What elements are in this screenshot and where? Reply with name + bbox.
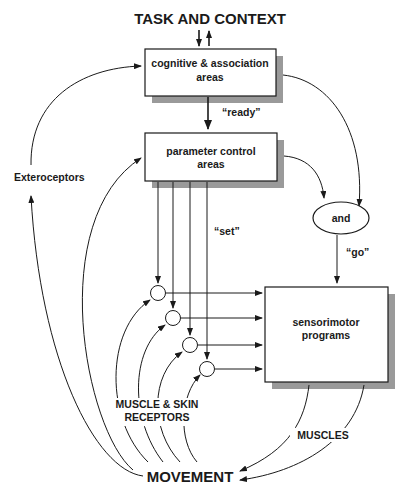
- parameter-label-line2: areas: [197, 158, 225, 170]
- sensorimotor-label-line1: sensorimotor: [292, 316, 359, 328]
- junction-circle-1: [151, 286, 166, 301]
- motor-control-diagram: TASK AND CONTEXT cognitive & association…: [0, 0, 407, 493]
- junction-circle-3: [183, 338, 198, 353]
- muscles-label: MUSCLES: [297, 429, 348, 441]
- receptors-label-line1: MUSCLE & SKIN: [116, 398, 199, 410]
- ready-label: “ready”: [222, 106, 261, 118]
- cognitive-to-and-arrow: [283, 75, 360, 206]
- receptor-curve-1: [116, 300, 150, 462]
- sensorimotor-programs-box: sensorimotor programs: [265, 287, 395, 389]
- movement-label: MOVEMENT: [147, 468, 234, 485]
- cognitive-association-box: cognitive & association areas: [145, 49, 283, 103]
- title-task-and-context: TASK AND CONTEXT: [134, 10, 286, 27]
- exteroceptors-to-cognitive-arrow: [31, 66, 141, 165]
- and-gate: and: [313, 202, 369, 234]
- go-label: “go”: [346, 246, 369, 258]
- cognitive-label-line2: areas: [196, 71, 224, 83]
- sensorimotor-label-line2: programs: [302, 329, 351, 341]
- and-label: and: [332, 212, 351, 224]
- diagram-svg: TASK AND CONTEXT cognitive & association…: [0, 0, 407, 493]
- movement-to-exteroceptors-arrow: [31, 196, 143, 476]
- junction-circle-4: [200, 362, 215, 377]
- parameter-to-and-arrow: [284, 156, 324, 198]
- receptors-label-line2: RECEPTORS: [124, 411, 189, 423]
- parameter-label-line1: parameter control: [166, 145, 255, 157]
- receptor-curve-2: [138, 325, 165, 462]
- junction-circle-2: [166, 311, 181, 326]
- set-label: “set”: [214, 225, 240, 237]
- parameter-control-box: parameter control areas: [145, 133, 284, 188]
- exteroceptors-label: Exteroceptors: [14, 171, 85, 183]
- cognitive-label-line1: cognitive & association: [151, 57, 268, 69]
